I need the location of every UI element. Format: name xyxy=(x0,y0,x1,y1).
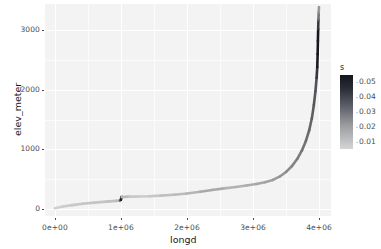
gridline-minor-vertical xyxy=(286,4,287,216)
legend-tick-mark xyxy=(356,127,358,128)
y-tick-label: 1000 xyxy=(10,144,40,153)
x-tick-label: 0e+00 xyxy=(35,223,75,232)
legend-title: s xyxy=(340,63,344,72)
y-tick-mark xyxy=(42,209,44,210)
chart-container: 0100020003000 elev_meter 0e+001e+062e+06… xyxy=(0,0,381,249)
gridline-major-vertical xyxy=(319,4,320,216)
y-tick-label: 0 xyxy=(10,204,40,213)
gridline-major-vertical xyxy=(253,4,254,216)
legend-tick-label: 0.01 xyxy=(359,137,376,146)
legend-tick-label: 0.04 xyxy=(359,92,376,101)
y-tick-label: 3000 xyxy=(10,25,40,34)
legend-tick-mark xyxy=(356,142,358,143)
x-axis-title: longd xyxy=(170,234,197,245)
gridline-major-horizontal xyxy=(45,30,331,31)
x-tick-label: 1e+06 xyxy=(101,223,141,232)
x-tick-mark xyxy=(319,218,320,220)
legend-labels: 0.050.040.030.020.01 xyxy=(356,75,381,149)
x-tick-mark xyxy=(121,218,122,220)
gridline-major-horizontal xyxy=(45,149,331,150)
y-tick-mark xyxy=(42,149,44,150)
legend-tick-label: 0.05 xyxy=(359,77,376,86)
y-axis-title: elev_meter xyxy=(12,83,23,136)
legend-tick-mark xyxy=(356,82,358,83)
gridline-minor-vertical xyxy=(154,4,155,216)
legend-tick-mark xyxy=(356,112,358,113)
legend-colorbar xyxy=(340,75,353,149)
gridline-major-vertical xyxy=(187,4,188,216)
legend-tick-label: 0.03 xyxy=(359,107,376,116)
x-tick-mark xyxy=(253,218,254,220)
x-tick-label: 2e+06 xyxy=(167,223,207,232)
gridline-major-vertical xyxy=(55,4,56,216)
gridline-minor-vertical xyxy=(220,4,221,216)
gridline-minor-vertical xyxy=(88,4,89,216)
x-tick-label: 4e+06 xyxy=(299,223,339,232)
y-tick-mark xyxy=(42,30,44,31)
gridline-minor-horizontal xyxy=(45,179,331,180)
gridline-major-horizontal xyxy=(45,209,331,210)
legend-tick-label: 0.02 xyxy=(359,122,376,131)
gridline-major-vertical xyxy=(121,4,122,216)
gridline-major-horizontal xyxy=(45,90,331,91)
x-tick-label: 3e+06 xyxy=(233,223,273,232)
gridline-minor-horizontal xyxy=(45,120,331,121)
y-tick-mark xyxy=(42,90,44,91)
x-tick-mark xyxy=(55,218,56,220)
plot-panel xyxy=(45,4,331,216)
x-tick-mark xyxy=(187,218,188,220)
legend-tick-mark xyxy=(356,97,358,98)
gridline-minor-horizontal xyxy=(45,60,331,61)
